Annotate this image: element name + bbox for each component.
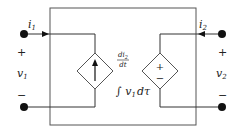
label-integral: ∫ v1dτ xyxy=(116,85,151,99)
terminal-node-top-left xyxy=(20,30,28,38)
terminal-node-top-right xyxy=(218,30,226,38)
two-port-circuit-diagram: + − i1 + v1 − i2 + v2 − di2 dt ∫ v1dτ xyxy=(0,0,238,132)
label-v2-minus: − xyxy=(218,89,227,102)
label-v2: v2 xyxy=(216,67,227,81)
label-dt: dt xyxy=(119,61,126,69)
label-di2: di2 xyxy=(118,51,128,60)
source-minus: − xyxy=(156,73,164,84)
current-arrow-i1-icon xyxy=(42,31,49,37)
terminal-node-bottom-left xyxy=(20,103,28,111)
label-v2-plus: + xyxy=(218,46,227,59)
source-plus: + xyxy=(156,61,164,72)
terminal-node-bottom-right xyxy=(218,103,226,111)
label-v1: v1 xyxy=(17,67,28,81)
label-v1-plus: + xyxy=(17,46,26,59)
source-arrowhead-icon xyxy=(92,59,98,66)
label-i1: i1 xyxy=(28,18,36,32)
label-v1-minus: − xyxy=(17,89,26,102)
label-i2: i2 xyxy=(199,18,208,32)
